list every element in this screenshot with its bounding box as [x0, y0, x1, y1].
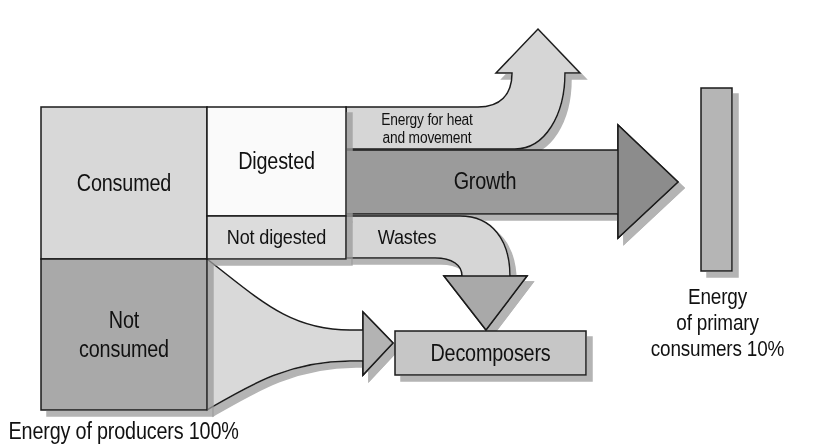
wastes-label: Wastes: [360, 226, 455, 247]
producers-caption: Energy of producers 100%: [0, 420, 267, 443]
consumers-caption-line3: consumers 10%: [642, 338, 793, 360]
growth-label: Growth: [429, 170, 541, 193]
not-consumed-label-line2: consumed: [53, 338, 196, 361]
heat-movement-label-line1: Energy for heat: [363, 112, 492, 128]
primary-consumers-bar: [701, 88, 732, 271]
consumers-caption-line1: Energy: [651, 286, 784, 308]
not-consumed-box: [41, 259, 207, 410]
heat-movement-label-line2: and movement: [363, 130, 492, 146]
not-consumed-label-line1: Not: [53, 309, 196, 332]
digested-label: Digested: [217, 150, 337, 173]
energy-flow-diagram: [0, 0, 837, 446]
decomposers-label: Decomposers: [408, 342, 572, 365]
not-consumed-funnel-arrow: [207, 259, 393, 410]
not-digested-label: Not digested: [217, 226, 337, 247]
consumers-caption-line2: of primary: [651, 312, 784, 334]
consumed-label: Consumed: [53, 172, 196, 195]
